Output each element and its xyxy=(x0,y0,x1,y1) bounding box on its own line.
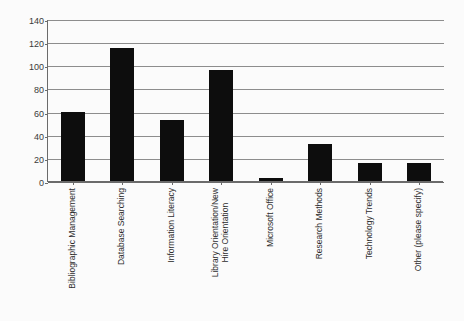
bars-group xyxy=(48,19,444,181)
x-axis-tick-mark xyxy=(419,181,420,185)
bar-slot xyxy=(197,19,247,181)
x-axis-label-line: Microsoft Office xyxy=(265,188,275,247)
x-axis-label-line: Database Searching xyxy=(116,188,126,265)
x-axis-label-line: Library Orientation/New xyxy=(210,188,220,277)
x-axis-category-label: Database Searching xyxy=(116,188,126,265)
x-axis-tick-mark xyxy=(320,181,321,185)
y-axis-tick-label: 80 xyxy=(34,86,44,95)
bar-slot xyxy=(246,19,296,181)
bar[interactable] xyxy=(61,112,85,181)
x-axis-label-line: Other (please specify) xyxy=(413,188,423,271)
x-axis-category-label: Research Methods xyxy=(314,188,324,259)
x-axis-tick-mark xyxy=(370,181,371,185)
bar[interactable] xyxy=(160,120,184,181)
x-axis-tick-mark xyxy=(271,181,272,185)
bar-slot xyxy=(48,19,98,181)
x-axis-label-slot: Research Methods xyxy=(295,188,345,308)
x-axis-label-line: Hire Orientation xyxy=(220,188,230,277)
x-axis-label-slot: Database Searching xyxy=(97,188,147,308)
x-axis-label-line: Information Literacy xyxy=(166,188,176,263)
bar-slot xyxy=(147,19,197,181)
bar[interactable] xyxy=(110,48,134,181)
x-axis-label-slot: Other (please specify) xyxy=(394,188,444,308)
x-axis-category-label: Microsoft Office xyxy=(265,188,275,247)
y-axis-tick-label: 20 xyxy=(34,155,44,164)
x-axis-label-line: Bibliographic Management xyxy=(67,188,77,289)
bar-slot xyxy=(296,19,346,181)
x-axis-labels: Bibliographic ManagementDatabase Searchi… xyxy=(47,188,443,308)
bar[interactable] xyxy=(308,144,332,181)
bar[interactable] xyxy=(209,70,233,181)
x-axis-tick-mark xyxy=(172,181,173,185)
plot-area: 140120100806040200 xyxy=(47,20,443,182)
x-axis-label-slot: Library Orientation/NewHire Orientation xyxy=(196,188,246,308)
x-axis-tick-mark xyxy=(73,181,74,185)
x-axis-label-slot: Microsoft Office xyxy=(245,188,295,308)
bar[interactable] xyxy=(358,163,382,182)
x-axis-label-line: Research Methods xyxy=(314,188,324,259)
x-axis-label-slot: Bibliographic Management xyxy=(47,188,97,308)
x-axis-category-label: Technology Trends xyxy=(364,188,374,259)
bar-slot xyxy=(395,19,445,181)
x-axis-category-label: Bibliographic Management xyxy=(67,188,77,289)
x-axis-tick-mark xyxy=(122,181,123,185)
bar-slot xyxy=(98,19,148,181)
y-axis-tick-label: 40 xyxy=(34,132,44,141)
bar-slot xyxy=(345,19,395,181)
bar[interactable] xyxy=(407,163,431,182)
y-axis-tick-label: 120 xyxy=(29,40,44,49)
x-axis-label-slot: Technology Trends xyxy=(344,188,394,308)
x-axis-label-line: Technology Trends xyxy=(364,188,374,259)
y-axis-tick-label: 60 xyxy=(34,109,44,118)
x-axis-category-label: Information Literacy xyxy=(166,188,176,263)
y-axis-tick-label: 0 xyxy=(39,179,44,188)
gridline: 0 xyxy=(48,182,444,183)
bar-chart: 140120100806040200 Bibliographic Managem… xyxy=(0,0,464,321)
y-axis-tick-label: 100 xyxy=(29,63,44,72)
y-axis-tick-label: 140 xyxy=(29,17,44,26)
y-axis-tick-mark xyxy=(45,183,48,184)
x-axis-label-slot: Information Literacy xyxy=(146,188,196,308)
x-axis-category-label: Library Orientation/NewHire Orientation xyxy=(210,188,230,277)
x-axis-category-label: Other (please specify) xyxy=(413,188,423,271)
x-axis-tick-mark xyxy=(221,181,222,185)
